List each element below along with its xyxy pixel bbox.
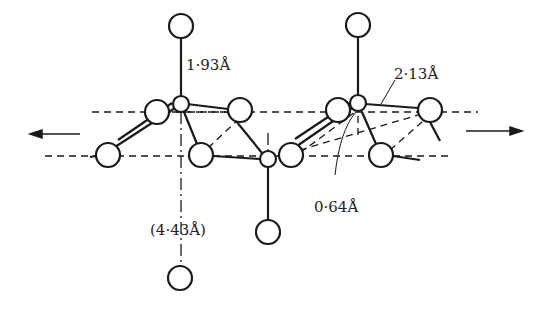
arrow-right-icon — [466, 127, 522, 135]
label-layer-spacing: (4·43Å) — [150, 221, 206, 239]
arrow-left-icon — [30, 130, 80, 138]
bonds — [90, 37, 440, 220]
label-bond-vertical: 1·93Å — [186, 56, 230, 74]
label-offset: 0·64Å — [314, 198, 358, 216]
crystal-structure-diagram: 1·93Å 2·13Å 0·64Å (4·43Å) — [0, 0, 540, 314]
label-bond-diagonal: 2·13Å — [394, 65, 438, 83]
